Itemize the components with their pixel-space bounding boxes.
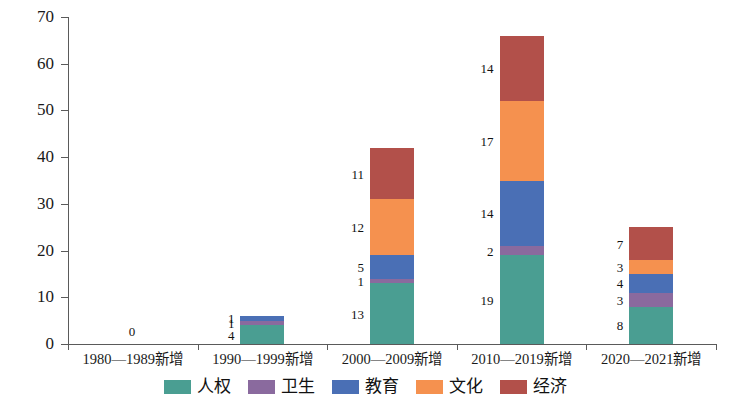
bar-segment-人权[interactable] — [629, 307, 673, 344]
stacked-bar-chart: 010203040506070 041113151211192141714834… — [0, 0, 731, 406]
bar-group[interactable]: 411 — [240, 17, 284, 344]
bar-value-label: 12 — [351, 221, 364, 234]
y-tick-mark — [61, 17, 68, 18]
x-tick-mark — [586, 344, 587, 350]
bar-segment-教育[interactable] — [629, 274, 673, 293]
legend-label: 教育 — [365, 378, 399, 395]
bar-group[interactable]: 83437 — [629, 17, 673, 344]
legend-swatch-icon — [500, 380, 527, 394]
bar-value-label: 4 — [617, 277, 624, 290]
bar-value-label: 3 — [617, 294, 624, 307]
chart-legend: 人权卫生教育文化经济 — [0, 378, 731, 395]
bar-segment-经济[interactable] — [629, 227, 673, 260]
y-tick-mark — [61, 297, 68, 298]
y-tick-label: 30 — [8, 195, 54, 212]
x-axis-line — [68, 344, 716, 345]
legend-swatch-icon — [248, 380, 275, 394]
x-tick-mark — [716, 344, 717, 350]
x-axis-label: 2020—2021新增 — [566, 352, 731, 368]
bar-value-label: 11 — [351, 168, 364, 181]
bar-segment-文化[interactable] — [370, 199, 414, 255]
bar-stack — [240, 316, 284, 344]
y-tick-label: 20 — [8, 242, 54, 259]
bar-group[interactable]: 192141714 — [500, 17, 544, 344]
bar-segment-卫生[interactable] — [629, 293, 673, 307]
bar-segment-卫生[interactable] — [500, 246, 544, 255]
y-tick-mark — [61, 344, 68, 345]
bar-value-label: 7 — [617, 238, 624, 251]
y-tick-label: 50 — [8, 101, 54, 118]
bar-segment-人权[interactable] — [500, 255, 544, 344]
bar-segment-经济[interactable] — [370, 148, 414, 199]
legend-label: 卫生 — [281, 378, 315, 395]
legend-label: 人权 — [197, 378, 231, 395]
y-tick-mark — [61, 110, 68, 111]
bar-value-label: 14 — [481, 62, 494, 75]
x-tick-mark — [457, 344, 458, 350]
y-tick-mark — [61, 64, 68, 65]
legend-item[interactable]: 经济 — [500, 378, 567, 395]
y-tick-label: 10 — [8, 288, 54, 305]
legend-item[interactable]: 文化 — [416, 378, 483, 395]
x-tick-mark — [327, 344, 328, 350]
bar-segment-文化[interactable] — [629, 260, 673, 274]
bar-value-label: 19 — [481, 294, 494, 307]
legend-swatch-icon — [332, 380, 359, 394]
bar-value-label: 5 — [358, 261, 365, 274]
bar-value-label: 13 — [351, 308, 364, 321]
legend-label: 经济 — [533, 378, 567, 395]
plot-area: 04111315121119214171483437 — [68, 17, 716, 344]
bar-segment-文化[interactable] — [500, 101, 544, 180]
legend-item[interactable]: 卫生 — [248, 378, 315, 395]
bar-value-label: 8 — [617, 319, 624, 332]
bar-value-label: 14 — [481, 207, 494, 220]
bar-value-label: 17 — [481, 135, 494, 148]
y-tick-label: 0 — [8, 335, 54, 352]
legend-item[interactable]: 教育 — [332, 378, 399, 395]
bar-group[interactable]: 13151211 — [370, 17, 414, 344]
legend-swatch-icon — [416, 380, 443, 394]
bar-segment-教育[interactable] — [500, 181, 544, 246]
bar-group[interactable]: 0 — [111, 17, 155, 344]
y-tick-mark — [61, 157, 68, 158]
y-tick-mark — [61, 204, 68, 205]
legend-item[interactable]: 人权 — [164, 378, 231, 395]
bar-value-label: 1 — [358, 275, 365, 288]
bar-value-label: 2 — [487, 245, 494, 258]
x-tick-mark — [198, 344, 199, 350]
y-tick-mark — [61, 251, 68, 252]
y-tick-label: 60 — [8, 55, 54, 72]
x-tick-mark — [68, 344, 69, 350]
legend-label: 文化 — [449, 378, 483, 395]
bar-segment-人权[interactable] — [240, 325, 284, 344]
legend-swatch-icon — [164, 380, 191, 394]
bar-segment-教育[interactable] — [370, 255, 414, 278]
bar-segment-人权[interactable] — [370, 283, 414, 344]
y-tick-label: 40 — [8, 148, 54, 165]
bar-value-label: 0 — [129, 325, 136, 338]
bar-value-label: 3 — [617, 261, 624, 274]
bar-stack — [629, 227, 673, 344]
bar-value-label: 1 — [228, 312, 235, 325]
bar-stack — [370, 148, 414, 344]
y-tick-label: 70 — [8, 8, 54, 25]
bar-segment-经济[interactable] — [500, 36, 544, 101]
bar-stack — [500, 36, 544, 344]
